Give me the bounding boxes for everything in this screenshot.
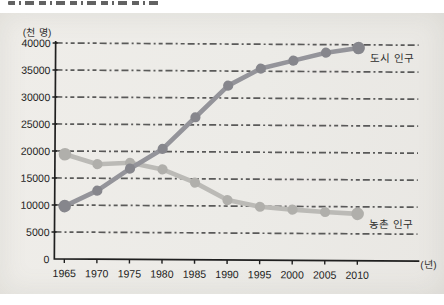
rural-data-point (157, 164, 167, 174)
urban-data-point (288, 55, 298, 65)
y-tick-label: 30000 (10, 91, 50, 103)
gridline-20000 (55, 151, 418, 153)
y-tick-label: 15000 (10, 172, 50, 184)
urban-data-point (92, 186, 102, 196)
urban-data-point (125, 164, 135, 174)
y-tick-label: 0 (9, 253, 49, 265)
gridline-40000 (56, 43, 419, 45)
y-tick-label: 35000 (10, 64, 50, 76)
rural-data-point (92, 159, 102, 169)
x-tick-label: 1990 (209, 268, 245, 280)
rural-data-point (59, 148, 72, 161)
urban-data-point (352, 42, 365, 55)
x-tick-label: 1995 (242, 268, 278, 280)
chart-area: (천 명) (년) 050001000015000200002500030000… (0, 0, 444, 305)
urban-data-point (321, 48, 331, 58)
rural-data-point (351, 208, 364, 221)
rural-data-point (320, 207, 330, 217)
rural-series-label: 농촌 인구 (369, 216, 415, 231)
rural-data-point (255, 202, 265, 212)
x-axis-unit-label: (년) (420, 256, 437, 271)
y-tick-label: 25000 (10, 118, 50, 130)
gridline-5000 (54, 232, 417, 234)
urban-data-point (223, 80, 233, 90)
x-tick-label: 2000 (274, 268, 310, 280)
screenshot-root: (천 명) (년) 050001000015000200002500030000… (0, 0, 444, 305)
y-tick-label: 10000 (10, 199, 50, 211)
gridline-30000 (55, 97, 418, 99)
x-tick-label: 1965 (46, 267, 82, 279)
urban-data-point (190, 112, 200, 122)
rural-data-point (222, 195, 232, 205)
y-tick-label: 20000 (10, 145, 50, 157)
urban-data-point (58, 200, 71, 213)
urban-series-label: 도시 인구 (370, 50, 416, 65)
rural-data-point (287, 205, 297, 215)
x-tick-label: 1975 (111, 267, 147, 279)
x-tick-label: 1980 (144, 268, 180, 280)
urban-data-point (256, 63, 266, 73)
gridline-35000 (55, 70, 418, 72)
x-tick-label: 1970 (79, 267, 115, 279)
x-tick-label: 1985 (176, 268, 212, 280)
population-line-chart (0, 0, 444, 305)
gridline-10000 (55, 205, 418, 207)
y-tick-label: 40000 (11, 37, 51, 49)
x-tick-label: 2010 (339, 269, 375, 281)
urban-data-point (158, 144, 168, 154)
gridline-25000 (55, 124, 418, 126)
x-tick-label: 2005 (307, 269, 343, 281)
rural-data-point (190, 177, 200, 187)
y-tick-label: 5000 (9, 226, 49, 238)
